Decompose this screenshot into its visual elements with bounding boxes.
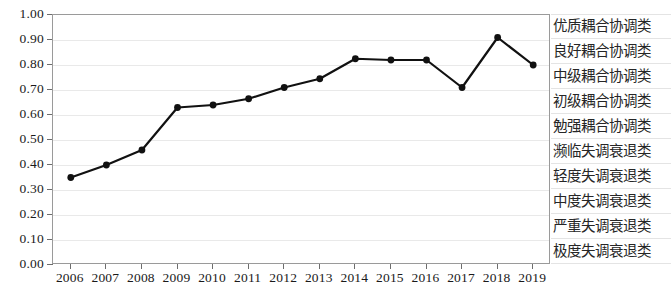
category-band-label: 勉强耦合协调类 bbox=[551, 119, 651, 134]
x-axis-tick-mark bbox=[461, 264, 462, 269]
x-axis-tick-mark bbox=[319, 264, 320, 269]
data-point bbox=[174, 104, 181, 111]
x-axis-tick-label: 2016 bbox=[412, 270, 440, 286]
x-axis-tick-mark bbox=[105, 264, 106, 269]
x-axis-tick-label: 2009 bbox=[163, 270, 191, 286]
x-axis-tick-label: 2006 bbox=[56, 270, 84, 286]
series-markers bbox=[67, 34, 536, 181]
data-point bbox=[423, 57, 430, 64]
x-axis-tick-label: 2012 bbox=[269, 270, 297, 286]
data-point bbox=[139, 147, 146, 154]
category-band: 勉强耦合协调类 bbox=[551, 114, 671, 139]
category-band-label: 中度失调衰退类 bbox=[551, 194, 651, 209]
y-axis-tick-label: 0.80 bbox=[0, 57, 44, 71]
y-axis-tick-label: 0.70 bbox=[0, 82, 44, 96]
y-axis-tick-label: 1.00 bbox=[0, 7, 44, 21]
category-band-label: 优质耦合协调类 bbox=[551, 19, 651, 34]
x-axis-tick-mark bbox=[141, 264, 142, 269]
y-axis-tick-label: 0.40 bbox=[0, 157, 44, 171]
y-axis: 1.000.900.800.700.600.500.400.300.200.10… bbox=[0, 0, 44, 295]
data-point bbox=[210, 102, 217, 109]
data-point bbox=[67, 174, 74, 181]
x-axis: 2006200720082009201020112012201320142015… bbox=[52, 270, 550, 292]
data-point bbox=[459, 84, 466, 91]
category-band-label: 中级耦合协调类 bbox=[551, 69, 651, 84]
series-line bbox=[71, 38, 533, 178]
data-point bbox=[530, 62, 537, 69]
category-band: 中度失调衰退类 bbox=[551, 189, 671, 214]
y-axis-tick-label: 0.90 bbox=[0, 32, 44, 46]
data-point bbox=[316, 75, 323, 82]
y-axis-tick-label: 0.00 bbox=[0, 257, 44, 271]
x-axis-tick-label: 2008 bbox=[127, 270, 155, 286]
x-axis-tick-mark bbox=[426, 264, 427, 269]
data-point bbox=[245, 95, 252, 102]
x-axis-tick-mark bbox=[248, 264, 249, 269]
category-band-label: 初级耦合协调类 bbox=[551, 94, 651, 109]
x-axis-tick-mark bbox=[283, 264, 284, 269]
x-axis-tick-mark bbox=[532, 264, 533, 269]
plot-area bbox=[52, 14, 550, 264]
x-axis-tick-label: 2015 bbox=[376, 270, 404, 286]
x-axis-tick-label: 2013 bbox=[305, 270, 333, 286]
category-band: 极度失调衰退类 bbox=[551, 239, 671, 264]
x-axis-tick-mark bbox=[177, 264, 178, 269]
x-axis-tick-mark bbox=[212, 264, 213, 269]
y-axis-tick-label: 0.20 bbox=[0, 207, 44, 221]
x-axis-tick-mark bbox=[390, 264, 391, 269]
y-axis-tick-label: 0.10 bbox=[0, 232, 44, 246]
x-axis-tick-label: 2011 bbox=[234, 270, 261, 286]
y-axis-tick-label: 0.60 bbox=[0, 107, 44, 121]
category-band-label: 濒临失调衰退类 bbox=[551, 144, 651, 159]
x-axis-tick-label: 2017 bbox=[447, 270, 475, 286]
category-band-label: 严重失调衰退类 bbox=[551, 219, 651, 234]
category-band: 严重失调衰退类 bbox=[551, 214, 671, 239]
category-band: 中级耦合协调类 bbox=[551, 64, 671, 89]
x-axis-tick-mark bbox=[354, 264, 355, 269]
data-point bbox=[281, 84, 288, 91]
category-band: 初级耦合协调类 bbox=[551, 89, 671, 114]
category-band: 良好耦合协调类 bbox=[551, 39, 671, 64]
x-axis-tick-label: 2019 bbox=[518, 270, 546, 286]
category-band-label: 轻度失调衰退类 bbox=[551, 169, 651, 184]
y-axis-tick-label: 0.30 bbox=[0, 182, 44, 196]
data-point bbox=[352, 55, 359, 62]
data-point bbox=[494, 34, 501, 41]
x-axis-tick-mark bbox=[70, 264, 71, 269]
x-axis-tick-label: 2018 bbox=[483, 270, 511, 286]
y-axis-tick-label: 0.50 bbox=[0, 132, 44, 146]
category-band: 轻度失调衰退类 bbox=[551, 164, 671, 189]
data-series-svg bbox=[53, 15, 551, 265]
category-band-label: 极度失调衰退类 bbox=[551, 244, 651, 259]
x-axis-tick-label: 2014 bbox=[340, 270, 368, 286]
category-band-label: 良好耦合协调类 bbox=[551, 44, 651, 59]
x-axis-tick-label: 2010 bbox=[198, 270, 226, 286]
category-band: 优质耦合协调类 bbox=[551, 14, 671, 39]
data-point bbox=[103, 162, 110, 169]
line-chart: 1.000.900.800.700.600.500.400.300.200.10… bbox=[0, 0, 671, 295]
category-axis: 优质耦合协调类良好耦合协调类中级耦合协调类初级耦合协调类勉强耦合协调类濒临失调衰… bbox=[551, 14, 671, 264]
data-point bbox=[388, 57, 395, 64]
x-axis-tick-label: 2007 bbox=[91, 270, 119, 286]
x-axis-tick-mark bbox=[497, 264, 498, 269]
category-band: 濒临失调衰退类 bbox=[551, 139, 671, 164]
